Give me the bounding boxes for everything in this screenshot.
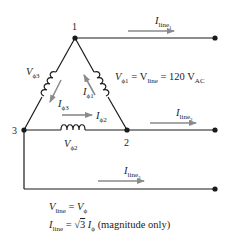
terminal-3-dot [212, 186, 217, 191]
node-2-dot [124, 127, 129, 132]
delta-circuit-diagram: 1 2 3 Vϕ3 Vϕ1 = Vline = 120 VAC Vϕ2 Iϕ3 … [0, 0, 230, 241]
v-phi1-equation: Vϕ1 = Vline = 120 VAC [115, 71, 205, 85]
winding-phi3 [24, 38, 75, 130]
node-1-label: 1 [72, 21, 77, 32]
terminal-2-dot [212, 127, 217, 132]
equation-iline: Iline = √3 Iϕ (magnitude only) [48, 219, 171, 233]
node-2-label: 2 [124, 137, 129, 148]
terminal-1-dot [212, 35, 217, 40]
v-phi2-label: Vϕ2 [64, 138, 78, 152]
winding-phi2 [24, 125, 127, 130]
equation-vline: Vline = Vϕ [49, 201, 88, 215]
node-1-dot [72, 35, 77, 40]
v-phi3-label: Vϕ3 [26, 66, 40, 80]
i-line3-label: Iline3 [123, 165, 141, 180]
node-3-dot [21, 127, 26, 132]
node-3-label: 3 [12, 125, 17, 136]
i-phi1-label: Iϕ1 [82, 86, 94, 100]
i-line2-label: Iline2 [175, 107, 193, 122]
i-phi2-label: Iϕ2 [95, 110, 107, 124]
i-phi3-label: Iϕ3 [57, 98, 69, 112]
i-line1-label: Iline1 [154, 15, 172, 30]
